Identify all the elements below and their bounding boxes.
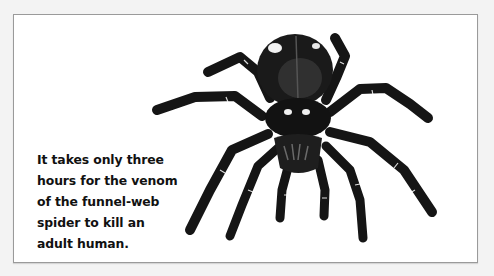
spider-illustration-icon [0,0,494,276]
spider-cephalothorax [265,98,331,138]
spider-leg-left-2 [157,96,262,116]
spider-leg-left-3 [190,134,268,230]
spider-leg-right-3 [330,132,432,212]
spider-chelicerae [274,134,322,173]
spider-leg-right-2 [330,88,428,118]
spider-leg-right-4 [326,146,363,238]
spider-palp-right [318,160,325,216]
spider-leg-left-4 [230,148,278,236]
